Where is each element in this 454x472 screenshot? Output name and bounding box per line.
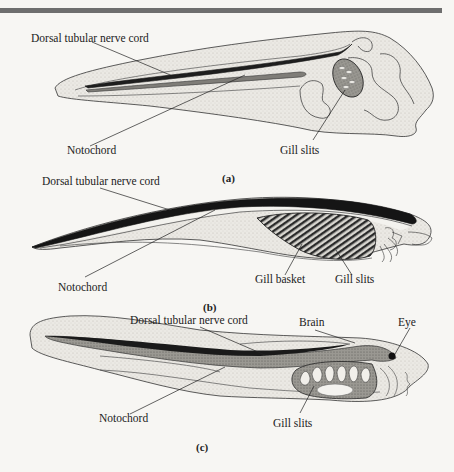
- panel-a-label-gill-slits: Gill slits: [280, 145, 319, 157]
- panel-b-drawing: [32, 188, 432, 277]
- panel-b-label-gill-basket: Gill basket: [255, 274, 305, 286]
- panel-c-label-notochord: Notochord: [99, 413, 148, 425]
- panel-b-label-nerve-cord: Dorsal tubular nerve cord: [42, 176, 160, 188]
- panel-b-label-gill-slits: Gill slits: [335, 274, 374, 286]
- panel-b-caption: (b): [203, 302, 216, 313]
- panel-c-drawing: [30, 316, 428, 414]
- panel-a-caption: (a): [222, 173, 235, 184]
- panel-c-label-nerve-cord: Dorsal tubular nerve cord: [130, 315, 248, 327]
- chordate-diagrams: [0, 0, 454, 472]
- panel-c-label-brain: Brain: [299, 317, 325, 329]
- panel-a-drawing: [55, 31, 433, 146]
- panel-b-label-notochord: Notochord: [58, 282, 107, 294]
- panel-c-caption: (c): [196, 442, 208, 453]
- panel-c-label-gill-slits: Gill slits: [273, 418, 312, 430]
- panel-a-label-notochord: Notochord: [67, 145, 116, 157]
- panel-c-label-eye: Eye: [398, 317, 416, 329]
- panel-a-label-nerve-cord: Dorsal tubular nerve cord: [31, 33, 149, 45]
